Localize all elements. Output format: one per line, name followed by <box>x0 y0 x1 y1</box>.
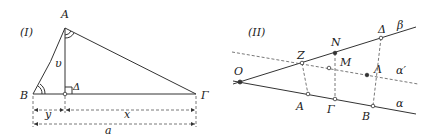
point-M <box>327 66 331 70</box>
seg-ZA <box>302 63 308 94</box>
line-alpha-prime <box>232 52 418 84</box>
point-Delta <box>63 92 67 96</box>
label-N: N <box>330 36 341 49</box>
point-Delta <box>379 36 383 40</box>
label-line-alpha-prime: α′ <box>396 64 406 77</box>
label-dim-y: y <box>44 108 52 121</box>
point-N <box>333 51 337 55</box>
figure-II: (II) O Z N Δ M Λ A Γ B β α′ α <box>232 19 418 123</box>
label-Lambda: Λ <box>373 63 382 76</box>
label-dim-x: x <box>124 108 131 121</box>
diagram-canvas: (I) A B Γ Δ υ y x a (II) <box>0 0 437 138</box>
point-B <box>371 104 375 108</box>
label-A: A <box>295 100 304 113</box>
label-A: A <box>60 8 69 21</box>
point-O <box>238 80 242 84</box>
label-line-alpha: α <box>396 97 404 110</box>
figure-II-tag: (II) <box>248 26 265 39</box>
label-B: B <box>361 110 370 123</box>
point-Lambda <box>365 73 369 77</box>
label-line-beta: β <box>396 19 403 32</box>
point-Gamma <box>333 97 337 101</box>
label-dim-a: a <box>105 124 112 137</box>
figure-I: (I) A B Γ Δ υ y x a <box>19 8 209 137</box>
angle-A-arc-1 <box>65 31 71 35</box>
label-Delta: Δ <box>377 23 386 36</box>
label-Gamma: Γ <box>200 89 209 102</box>
side-AG <box>65 28 196 94</box>
label-B: B <box>19 89 28 102</box>
point-A <box>306 92 310 96</box>
label-O: O <box>234 65 243 78</box>
angle-B-arc-1 <box>38 86 42 94</box>
figure-I-tag: (I) <box>20 26 33 39</box>
label-Gamma: Γ <box>326 103 335 116</box>
label-height: υ <box>55 57 62 70</box>
label-M: M <box>339 56 352 69</box>
label-Delta: Δ <box>72 81 80 92</box>
label-Z: Z <box>296 49 305 62</box>
line-alpha <box>233 81 416 114</box>
